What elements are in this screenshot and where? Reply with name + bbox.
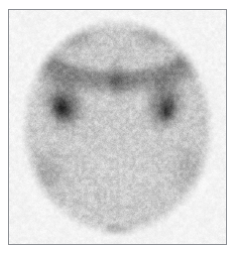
scintigraphy-scan-image	[9, 10, 226, 244]
scintigraphy-viewport: Scintigraphy Planar Scan	[0, 0, 236, 256]
scan-image-frame	[8, 9, 227, 245]
